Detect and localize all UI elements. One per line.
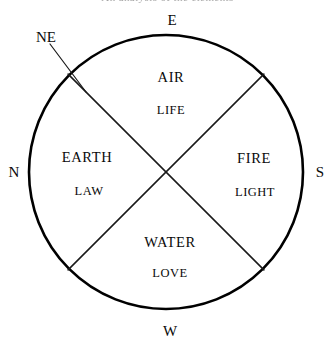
elements-diagram-figure: An analysis of the elements E S W N NE A… (0, 0, 335, 345)
quadrant-attribute-water: LOVE (152, 266, 187, 280)
quadrant-element-water: WATER (144, 234, 195, 250)
cardinal-label-south: S (316, 164, 324, 180)
quadrant-element-earth: EARTH (62, 149, 112, 165)
diagram-canvas: E S W N NE AIR LIFE FIRE LIGHT WATER LOV… (0, 0, 335, 345)
quadrant-attribute-air: LIFE (157, 103, 185, 117)
cardinal-label-east: E (167, 12, 176, 28)
cardinal-label-north: N (9, 164, 20, 180)
cardinal-label-northeast: NE (36, 29, 56, 45)
quadrant-attribute-fire: LIGHT (235, 185, 275, 199)
quadrant-element-fire: FIRE (237, 150, 271, 166)
quadrant-attribute-earth: LAW (75, 184, 104, 198)
cardinal-label-west: W (163, 323, 178, 339)
quadrant-element-air: AIR (158, 69, 185, 85)
